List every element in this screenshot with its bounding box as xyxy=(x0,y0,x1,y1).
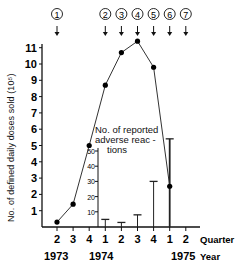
event-arrow-head xyxy=(167,32,172,36)
event-marker-number: 1 xyxy=(54,10,59,20)
year-axis-label: Year xyxy=(200,251,220,262)
year-label: 1973 xyxy=(44,250,68,262)
data-point xyxy=(167,184,172,189)
secondary-axis-label: No. of reported adverse reac - tions xyxy=(95,125,175,155)
year-label: 1974 xyxy=(89,250,114,262)
y-tick-label: 2 xyxy=(31,188,37,200)
event-marker-number: 7 xyxy=(183,10,188,20)
y-tick-label: 4 xyxy=(31,156,38,168)
y-tick-label: 5 xyxy=(31,140,37,152)
event-marker-number: 2 xyxy=(103,10,108,20)
y-tick-label: 1 xyxy=(31,205,37,217)
event-marker-number: 6 xyxy=(167,10,172,20)
event-arrow-head xyxy=(103,32,108,36)
event-arrow-head xyxy=(119,32,124,36)
data-point xyxy=(87,143,92,148)
y2-tick-label: 40 xyxy=(87,163,95,170)
quarter-label: 4 xyxy=(151,233,158,245)
event-arrow-head xyxy=(135,32,140,36)
data-point xyxy=(119,50,124,55)
event-marker-number: 3 xyxy=(119,10,124,20)
data-point xyxy=(151,65,156,70)
quarter-label: 3 xyxy=(134,233,140,245)
quarter-label: 2 xyxy=(54,233,60,245)
quarter-label: 1 xyxy=(102,233,108,245)
year-label: 1975 xyxy=(171,250,195,262)
event-arrow-head xyxy=(55,32,60,36)
quarter-label: 1 xyxy=(167,233,173,245)
event-arrow-head xyxy=(183,32,188,36)
data-point xyxy=(103,83,108,88)
y-tick-label: 7 xyxy=(31,107,37,119)
y-tick-label: 8 xyxy=(31,91,37,103)
y-tick-label: 9 xyxy=(31,74,37,86)
secondary-label-line3: tions xyxy=(95,145,175,155)
quarter-label: 2 xyxy=(183,233,189,245)
data-point xyxy=(135,39,140,44)
chart-area: 1234567891011234123412197319741975Quarte… xyxy=(0,0,240,266)
y-axis-label: No. of defined daily doses sold (10⁵) xyxy=(6,73,16,222)
event-marker-number: 4 xyxy=(135,10,140,20)
y-tick-label: 11 xyxy=(25,42,37,54)
data-point xyxy=(71,202,76,207)
y2-tick-label: 10 xyxy=(87,209,95,216)
data-point xyxy=(54,220,59,225)
y-tick-label: 3 xyxy=(31,172,37,184)
y2-tick-label: 20 xyxy=(87,194,95,201)
quarter-axis-label: Quarter xyxy=(200,234,235,245)
event-marker-number: 5 xyxy=(151,10,156,20)
y-tick-label: 6 xyxy=(31,123,37,135)
quarter-label: 2 xyxy=(118,233,124,245)
quarter-label: 4 xyxy=(86,233,93,245)
y2-tick-label: 30 xyxy=(87,178,95,185)
y-tick-label: 10 xyxy=(25,58,37,70)
quarter-label: 3 xyxy=(70,233,76,245)
event-arrow-head xyxy=(151,32,156,36)
